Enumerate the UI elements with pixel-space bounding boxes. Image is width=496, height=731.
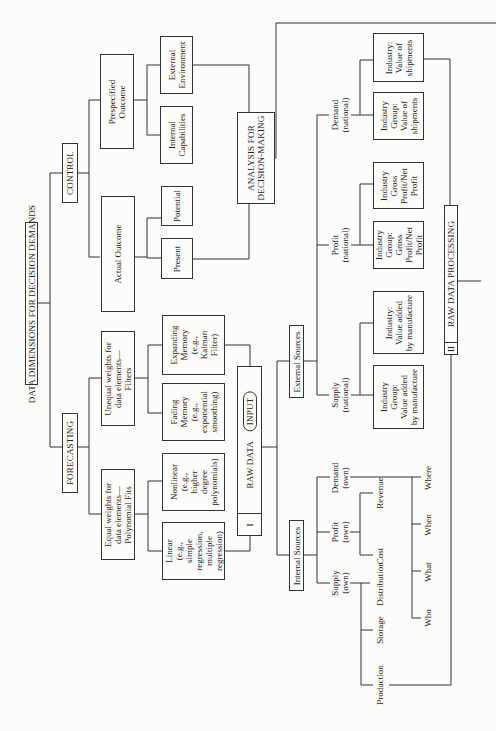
when-label: When <box>423 514 433 536</box>
raw-data-box: RAW DATAINPUT I <box>237 366 262 536</box>
control-box: CONTROL <box>62 143 78 203</box>
analysis-box: ANALYSIS FOR DECISION-MAKING <box>237 112 275 204</box>
nonlinear-box: Nonlinear (e.g., higher degree polynomia… <box>162 453 225 511</box>
storage-label: Storage <box>375 616 385 644</box>
internal-sources-label: Internal Sources <box>292 526 302 585</box>
profit-industry-label: Industry Gross Profit/Net Profit <box>379 168 419 204</box>
prespecified-outcome-box: Prespecified Outcome <box>100 54 134 149</box>
demand-own-label: Demand (own) <box>330 463 350 494</box>
profit-group-box: Industry Group: Gross Profit/Net Profit <box>373 221 424 269</box>
root-title: DATA DIMENSIONS FOR DECISION DEMANDS <box>27 204 37 403</box>
fading-memory-box: Fading Memory (e.g., exponential smoothi… <box>162 383 225 441</box>
internal-capabilities-label: Internal Capabilities <box>167 114 187 157</box>
raw-data-processing-number: II <box>446 346 456 352</box>
demand-national-label: Demand (national) <box>330 98 350 133</box>
external-environment-box: External Environment <box>160 36 193 94</box>
decision-data-diagram: DATA DIMENSIONS FOR DECISION DEMANDS CON… <box>0 0 496 731</box>
raw-data-processing-box: RAW DATA PROCESSING II <box>444 205 458 355</box>
root-title-box: DATA DIMENSIONS FOR DECISION DEMANDS <box>25 222 38 385</box>
supply-industry-label: Industry: Value added by manufacture <box>384 294 414 350</box>
supply-own-label: Supply (own) <box>330 570 350 596</box>
internal-capabilities-box: Internal Capabilities <box>160 106 193 164</box>
linear-box: Linear (e.g., simple regression, multipl… <box>162 522 225 580</box>
unequal-weights-box: Unequal weights for data elements— Filte… <box>101 331 135 426</box>
what-label: What <box>423 562 433 582</box>
actual-outcome-label: Actual Outcome <box>113 224 123 283</box>
actual-outcome-box: Actual Outcome <box>101 196 135 312</box>
raw-data-number: I <box>245 524 255 527</box>
revenue-label: Revenue <box>375 477 385 509</box>
demand-group-box: Industry Group: Value of shipments <box>373 92 424 140</box>
demand-industry-box: Industry: Value of shipments <box>373 33 424 82</box>
internal-sources-box: Internal Sources <box>289 520 304 591</box>
linear-label: Linear (e.g., simple regression, multipl… <box>164 531 224 571</box>
profit-national-label: Profit (national) <box>330 228 350 263</box>
forecasting-box: FORECASTING <box>62 413 78 493</box>
external-sources-label: External Sources <box>292 331 302 392</box>
where-label: Where <box>423 466 433 490</box>
unequal-weights-label: Unequal weights for data elements— Filte… <box>103 342 133 415</box>
nonlinear-label: Nonlinear (e.g., higher degree polynomia… <box>169 458 219 506</box>
production-label: Production <box>375 665 385 705</box>
raw-data-label: RAW DATAINPUT <box>243 392 257 489</box>
demand-industry-label: Industry: Value of shipments <box>384 39 414 76</box>
profit-group-label: Industry Group: Gross Profit/Net Profit <box>374 227 424 263</box>
expanding-memory-box: Expanding Memory (e.g., Kalman Filter) <box>162 315 225 375</box>
supply-group-label: Industry Group: Value added by manufactu… <box>379 369 419 425</box>
demand-group-label: Industry Group: Value of shipments <box>379 98 419 135</box>
profit-own-label: Profit (own) <box>330 521 350 543</box>
external-environment-label: External Environment <box>167 42 187 89</box>
equal-weights-label: Equal weights for data elements— Polynom… <box>103 483 133 547</box>
equal-weights-box: Equal weights for data elements— Polynom… <box>101 469 135 560</box>
who-label: Who <box>423 609 433 627</box>
external-sources-box: External Sources <box>289 325 304 398</box>
profit-industry-box: Industry Gross Profit/Net Profit <box>373 162 424 209</box>
present-box: Present <box>161 238 193 279</box>
supply-national-label: Supply (national) <box>330 378 350 413</box>
raw-data-processing-label: RAW DATA PROCESSING <box>446 221 456 327</box>
input-badge: INPUT <box>243 392 257 432</box>
prespecified-outcome-label: Prespecified Outcome <box>107 79 127 123</box>
analysis-label: ANALYSIS FOR DECISION-MAKING <box>246 116 266 201</box>
forecasting-label: FORECASTING <box>65 421 75 485</box>
supply-industry-box: Industry: Value added by manufacture <box>373 291 424 354</box>
supply-group-box: Industry Group: Value added by manufactu… <box>373 365 424 429</box>
distribution-label: Distribution <box>375 562 385 606</box>
potential-label: Potential <box>172 190 182 222</box>
control-label: CONTROL <box>65 151 75 195</box>
expanding-memory-label: Expanding Memory (e.g., Kalman Filter) <box>169 326 219 365</box>
fading-memory-label: Fading Memory (e.g., exponential smoothi… <box>169 391 219 433</box>
present-label: Present <box>172 245 182 272</box>
potential-box: Potential <box>161 186 193 226</box>
